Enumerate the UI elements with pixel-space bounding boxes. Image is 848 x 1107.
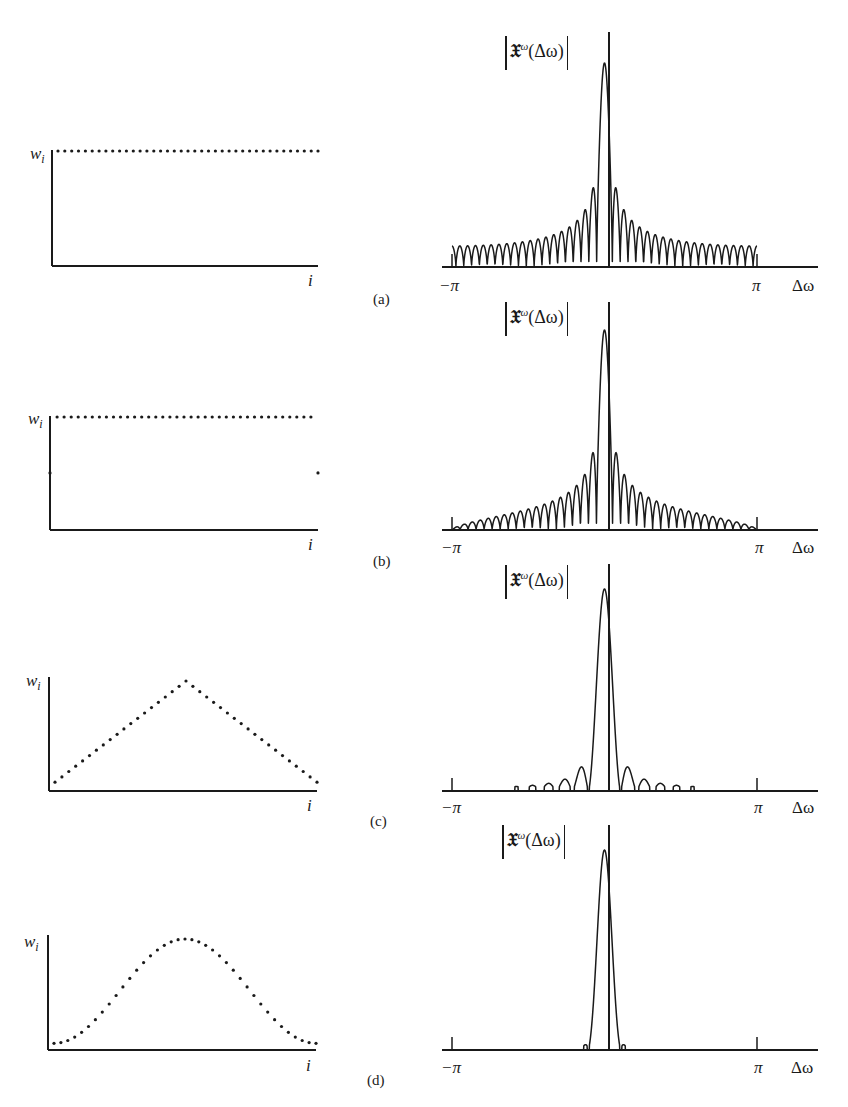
- panel-b-xlabel: i: [308, 536, 313, 553]
- panel-d-weight-dot: [259, 1002, 262, 1005]
- panel-d-weight-dot: [287, 1031, 290, 1034]
- panel-b-weight-dot: [190, 415, 193, 418]
- panel-b-weight-dot: [316, 471, 319, 474]
- panel-d-weight-dot: [246, 985, 249, 988]
- panel-a-weight-dot: [234, 149, 237, 152]
- panel-c-ylabel: wi: [26, 672, 41, 689]
- panel-d-weight-dot: [101, 1011, 104, 1014]
- panel-d-spectrum-label: 𝔛ω(Δω): [499, 825, 568, 859]
- panel-a-weight-dot: [289, 149, 292, 152]
- panel-a-weight-dot: [125, 149, 128, 152]
- panel-b-weight-dot: [253, 415, 256, 418]
- panel-a-spectrum-xlabel: Δω: [792, 277, 814, 294]
- panel-a-xlabel: i: [308, 272, 313, 289]
- panel-b-weight-dot: [197, 415, 200, 418]
- panel-c-weight-dot: [88, 754, 91, 757]
- panel-d-weight-dot: [66, 1039, 69, 1042]
- panel-d-weight-dot: [73, 1036, 76, 1039]
- panel-a-weight-dot: [193, 149, 196, 152]
- panel-b-weight-dot: [63, 415, 66, 418]
- panel-a-weight-dot: [310, 149, 313, 152]
- panel-b-weight-dot: [70, 415, 73, 418]
- panel-b-weight-dot: [211, 415, 214, 418]
- panel-c-weight-dot: [198, 690, 201, 693]
- panel-d-weight-dot: [197, 940, 200, 943]
- panel-c-spectrum-label: 𝔛ω(Δω): [502, 565, 571, 599]
- panel-a-weight-dot: [180, 149, 183, 152]
- panel-c-weight-dot: [219, 706, 222, 709]
- panel-b-tick-pi: π: [755, 539, 764, 556]
- panel-b-weight-dot: [147, 415, 150, 418]
- panel-a-weight-dot: [296, 149, 299, 152]
- panel-c-weight-dot: [150, 706, 153, 709]
- panel-b-weight-dot: [260, 415, 263, 418]
- panel-c-weight-dot: [95, 749, 98, 752]
- panel-a-weight-dot: [104, 149, 107, 152]
- panel-d-weight-dot: [149, 954, 152, 957]
- panel-c-weight-dot: [267, 743, 270, 746]
- panel-b-weight-dot: [218, 415, 221, 418]
- panel-a-weight-dot: [159, 149, 162, 152]
- panel-c-tick-neg-pi: −π: [441, 799, 461, 816]
- panel-d-weight-dot: [59, 1041, 62, 1044]
- panel-d-caption: (d): [367, 1073, 385, 1088]
- panel-a-weight-dot: [275, 149, 278, 152]
- panel-c-weight-dot: [74, 765, 77, 768]
- panel-b-ylabel: wi: [28, 410, 43, 427]
- panel-c-weight-dot: [143, 711, 146, 714]
- panel-c-weight-dot: [233, 717, 236, 720]
- panel-c-spectrum-curve: [452, 589, 757, 791]
- panel-c-weight-dot: [53, 781, 56, 784]
- panel-c-weight-dot: [178, 685, 181, 688]
- panel-b-weight-dot: [84, 415, 87, 418]
- panel-b-weight-dot: [105, 415, 108, 418]
- panel-a-ylabel: wi: [30, 145, 45, 162]
- panel-d-weight-dot: [280, 1025, 283, 1028]
- panel-b-weight-dot: [48, 471, 51, 474]
- panel-b-spectrum-xlabel: Δω: [792, 539, 814, 556]
- panel-d-weight-dot: [177, 938, 180, 941]
- panel-d-xlabel: i: [306, 1057, 311, 1074]
- panel-c-weight-dot: [295, 765, 298, 768]
- panel-c-weight-dot: [315, 781, 318, 784]
- panel-a-weight-dot: [214, 149, 217, 152]
- panel-c-weight-dot: [102, 743, 105, 746]
- panel-d-weight-dot: [52, 1042, 55, 1045]
- panel-b-weight-dot: [98, 415, 101, 418]
- panel-c-weight-dot: [116, 733, 119, 736]
- panel-c-weight-dot: [281, 754, 284, 757]
- panel-a-weight-dot: [77, 149, 80, 152]
- panel-a-weight-dot: [255, 149, 258, 152]
- panel-a-weight-dot: [316, 149, 319, 152]
- panel-a-caption: (a): [373, 292, 390, 307]
- panel-a-weight-dot: [200, 149, 203, 152]
- panel-a-weight-dot: [139, 149, 142, 152]
- panel-c-xlabel: i: [307, 797, 312, 814]
- panel-a-tick-pi: π: [752, 277, 761, 294]
- panel-a-weight-dot: [56, 149, 59, 152]
- panel-c-weight-dot: [67, 770, 70, 773]
- panel-d-weight-dot: [252, 994, 255, 997]
- panel-d-weight-dot: [232, 969, 235, 972]
- panel-a-weight-dot: [269, 149, 272, 152]
- panel-d-weight-dot: [142, 961, 145, 964]
- panel-b-weight-dot: [133, 415, 136, 418]
- panel-b-weight-dot: [274, 415, 277, 418]
- panel-c-weight-dot: [309, 775, 312, 778]
- panel-b-weight-dot: [267, 415, 270, 418]
- panel-a-tick-neg-pi: −π: [439, 277, 459, 294]
- panel-c-weight-dot: [212, 701, 215, 704]
- panel-b-weight-dot: [56, 415, 59, 418]
- panel-b-tick-neg-pi: −π: [441, 539, 461, 556]
- panel-b-weight-dot: [154, 415, 157, 418]
- panel-b-weight-dot: [161, 415, 164, 418]
- panel-b-weight-dot: [281, 415, 284, 418]
- panel-b-weight-dot: [239, 415, 242, 418]
- panel-d-weight-dot: [218, 954, 221, 957]
- panel-d-spectrum-curve: [452, 850, 757, 1050]
- panel-c-weight-dot: [302, 770, 305, 773]
- panel-b-weight-dot: [119, 415, 122, 418]
- panel-a-spectrum-curve: [452, 63, 757, 266]
- panel-a-spectrum-label: 𝔛ω(Δω): [502, 36, 571, 70]
- panel-b-weight-dot: [112, 415, 115, 418]
